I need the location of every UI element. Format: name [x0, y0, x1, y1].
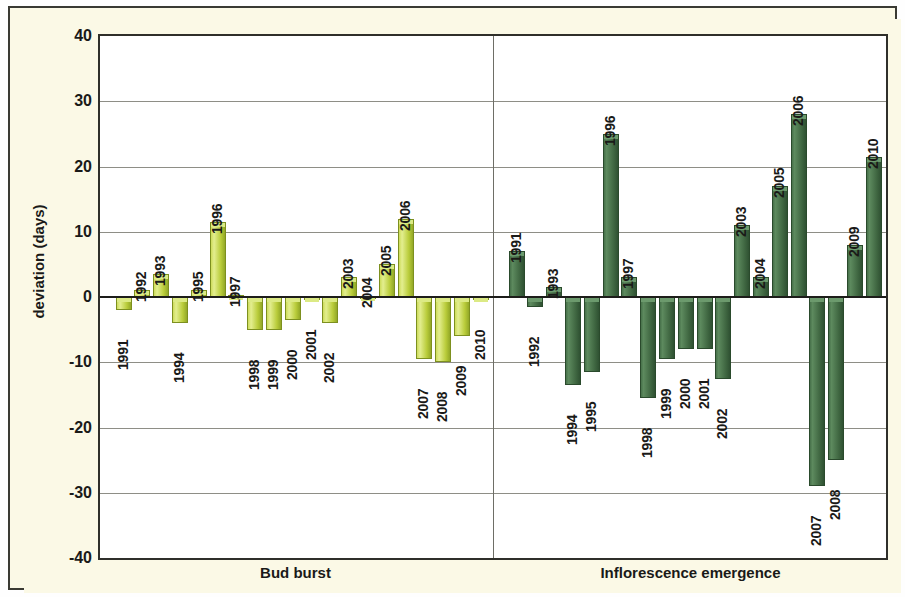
bar-highlight [698, 298, 712, 302]
year-label-budburst-2006: 2006 [397, 200, 413, 230]
year-label-budburst-2003: 2003 [340, 259, 356, 289]
y-tick-label-30: 30 [30, 92, 92, 110]
panel-caption-inflorescence-emergence: Inflorescence emergence [493, 564, 888, 581]
year-label-inflorescence-1996: 1996 [602, 116, 618, 146]
year-label-inflorescence-1992: 1992 [526, 336, 542, 366]
year-label-budburst-1992: 1992 [133, 272, 149, 302]
year-label-budburst-2009: 2009 [453, 366, 469, 396]
year-label-budburst-1996: 1996 [209, 204, 225, 234]
bar-budburst-1991 [116, 297, 132, 310]
year-label-inflorescence-2008: 2008 [827, 490, 843, 520]
year-label-budburst-2008: 2008 [434, 392, 450, 422]
y-tick-label-40: 40 [30, 27, 92, 45]
year-label-budburst-2000: 2000 [284, 349, 300, 379]
y-tick-label--10: -10 [30, 353, 92, 371]
bar-inflorescence-2001 [697, 297, 713, 349]
bar-highlight [417, 298, 431, 302]
year-label-inflorescence-1991: 1991 [508, 233, 524, 263]
year-label-inflorescence-2002: 2002 [714, 408, 730, 438]
year-label-budburst-1998: 1998 [246, 359, 262, 389]
year-label-inflorescence-1999: 1999 [658, 389, 674, 419]
bar-highlight [305, 298, 319, 302]
bar-inflorescence-2007 [809, 297, 825, 486]
bar-highlight [528, 298, 542, 302]
bar-budburst-2009 [454, 297, 470, 336]
bar-highlight [585, 298, 599, 302]
bar-highlight [566, 298, 580, 302]
year-label-inflorescence-2009: 2009 [846, 226, 862, 256]
year-label-inflorescence-2007: 2007 [808, 516, 824, 546]
zero-axis-line [100, 296, 886, 298]
bar-highlight [267, 298, 281, 302]
panel-captions: Bud burstInflorescence emergence [98, 564, 888, 597]
plot-area: 1991199219931994199519961997199819992000… [98, 34, 888, 560]
bar-inflorescence-1996 [603, 134, 619, 297]
year-label-inflorescence-2000: 2000 [677, 379, 693, 409]
bar-inflorescence-1998 [640, 297, 656, 398]
bar-highlight [117, 298, 131, 302]
year-label-budburst-2010: 2010 [472, 330, 488, 360]
year-label-budburst-1993: 1993 [152, 256, 168, 286]
year-label-budburst-2004: 2004 [359, 277, 375, 307]
bar-highlight [829, 298, 843, 302]
bar-highlight [455, 298, 469, 302]
bar-inflorescence-2006 [791, 114, 807, 297]
bar-highlight [286, 298, 300, 302]
year-label-budburst-1999: 1999 [265, 359, 281, 389]
bar-highlight [660, 298, 674, 302]
y-tick-label--40: -40 [30, 549, 92, 567]
year-label-budburst-1997: 1997 [227, 277, 243, 307]
y-tick-label-20: 20 [30, 158, 92, 176]
plot-inner: 1991199219931994199519961997199819992000… [100, 36, 886, 558]
year-label-inflorescence-2004: 2004 [752, 259, 768, 289]
bar-inflorescence-1999 [659, 297, 675, 359]
y-tick-label-10: 10 [30, 223, 92, 241]
year-label-inflorescence-2005: 2005 [771, 168, 787, 198]
year-label-inflorescence-2003: 2003 [733, 207, 749, 237]
bar-highlight [474, 298, 488, 302]
year-label-inflorescence-2001: 2001 [696, 379, 712, 409]
bar-highlight [679, 298, 693, 302]
bar-inflorescence-1995 [584, 297, 600, 372]
bar-highlight [173, 298, 187, 302]
y-tick-label-0: 0 [30, 288, 92, 306]
year-label-budburst-2007: 2007 [415, 389, 431, 419]
bar-budburst-1999 [266, 297, 282, 330]
bar-inflorescence-2000 [678, 297, 694, 349]
y-tick-label--20: -20 [30, 419, 92, 437]
figure-outer-border: deviation (days) 403020100-10-20-30-40 1… [8, 6, 897, 590]
bar-budburst-2000 [285, 297, 301, 320]
bar-highlight [436, 298, 450, 302]
y-axis-tick-labels: 403020100-10-20-30-40 [20, 34, 92, 560]
bar-inflorescence-2002 [715, 297, 731, 379]
year-label-inflorescence-2006: 2006 [790, 96, 806, 126]
bar-highlight [716, 298, 730, 302]
bar-highlight [248, 298, 262, 302]
year-label-inflorescence-1995: 1995 [583, 402, 599, 432]
y-tick-label--30: -30 [30, 484, 92, 502]
bar-budburst-2008 [435, 297, 451, 362]
bar-inflorescence-2008 [828, 297, 844, 460]
bar-inflorescence-2010 [866, 157, 882, 297]
year-label-budburst-2001: 2001 [303, 330, 319, 360]
year-label-inflorescence-1993: 1993 [545, 269, 561, 299]
bar-budburst-1994 [172, 297, 188, 323]
year-label-budburst-1991: 1991 [115, 340, 131, 370]
panel-caption-bud-burst: Bud burst [98, 564, 493, 581]
bar-budburst-2002 [322, 297, 338, 323]
year-label-inflorescence-1997: 1997 [620, 259, 636, 289]
bar-inflorescence-2005 [772, 186, 788, 297]
year-label-inflorescence-1998: 1998 [639, 428, 655, 458]
year-label-budburst-1994: 1994 [171, 353, 187, 383]
year-label-inflorescence-1994: 1994 [564, 415, 580, 445]
bar-inflorescence-1994 [565, 297, 581, 385]
bar-budburst-2007 [416, 297, 432, 359]
bar-budburst-1998 [247, 297, 263, 330]
bar-highlight [641, 298, 655, 302]
year-label-budburst-1995: 1995 [190, 272, 206, 302]
bar-highlight [810, 298, 824, 302]
bar-inflorescence-1992 [527, 297, 543, 307]
year-label-budburst-2005: 2005 [378, 246, 394, 276]
year-label-budburst-2002: 2002 [321, 353, 337, 383]
figure-frame: deviation (days) 403020100-10-20-30-40 1… [0, 0, 905, 597]
